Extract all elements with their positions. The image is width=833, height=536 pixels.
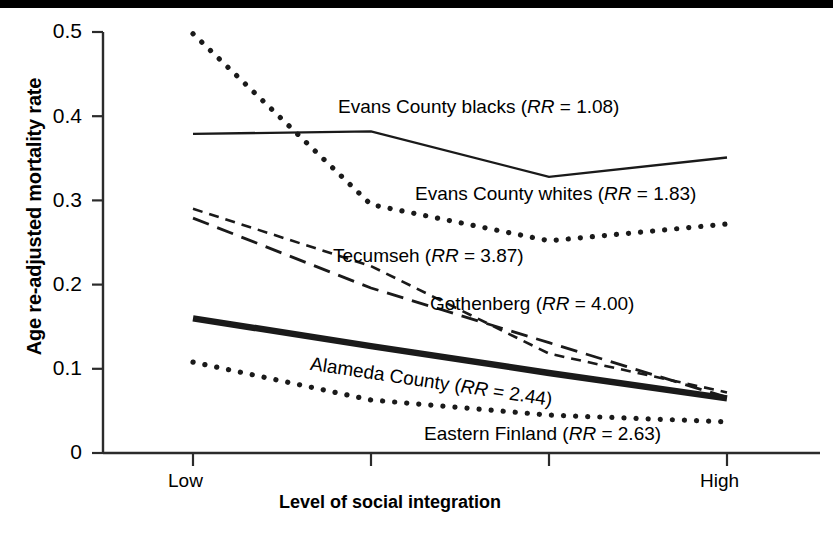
- data-series-layer: [193, 34, 727, 422]
- plot-area: [0, 0, 833, 536]
- y-axis-ticks: [92, 32, 103, 453]
- x-tick-label-low: Low: [168, 470, 203, 492]
- y-axis-title: Age re-adjusted mortality rate: [23, 57, 46, 377]
- series-label-eastern-finland: Eastern Finland (RR = 2.63): [424, 423, 661, 445]
- y-tick-label-0-5: 0.5: [20, 19, 82, 43]
- x-axis-title: Level of social integration: [190, 492, 590, 513]
- series-label-tecumseh: Tecumseh (RR = 3.87): [333, 245, 524, 267]
- x-tick-label-high: High: [700, 470, 739, 492]
- y-tick-label-0: 0: [20, 440, 82, 464]
- chart-figure: 0 0.1 0.2 0.3 0.4 0.5 Low High Age re-ad…: [0, 0, 833, 536]
- x-axis-ticks: [193, 453, 727, 466]
- series-line-evans-county-blacks: [193, 131, 727, 176]
- series-label-evans-county-blacks: Evans County blacks (RR = 1.08): [338, 96, 619, 118]
- series-line-evans-county-whites: [193, 34, 727, 241]
- series-label-gothenberg: Gothenberg (RR = 4.00): [430, 293, 634, 315]
- series-label-evans-county-whites: Evans County whites (RR = 1.83): [415, 183, 696, 205]
